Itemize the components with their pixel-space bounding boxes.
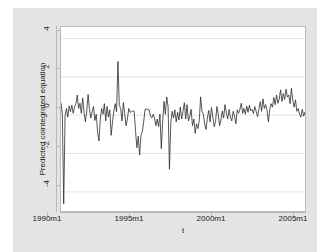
y-tick-label: -2 — [42, 136, 51, 152]
plot-area — [60, 26, 306, 212]
y-tick-label: -4 — [42, 175, 51, 191]
gridlines — [61, 39, 305, 192]
y-tick-label: 0 — [42, 98, 51, 114]
chart-screenshot: Predicted cointegrated equation t 420-2-… — [0, 0, 317, 252]
series-line-predicted-cointegrated-equation — [61, 62, 305, 204]
x-axis-title: t — [60, 226, 306, 235]
graph-region: Predicted cointegrated equation t 420-2-… — [13, 8, 317, 252]
y-tick-label: 2 — [42, 59, 51, 75]
plot-svg — [61, 27, 305, 211]
x-tick-mark — [129, 212, 130, 216]
x-axis-line — [60, 212, 306, 213]
x-tick-mark — [47, 212, 48, 216]
x-tick-mark — [211, 212, 212, 216]
y-tick-label: 4 — [42, 20, 51, 36]
x-tick-mark — [293, 212, 294, 216]
